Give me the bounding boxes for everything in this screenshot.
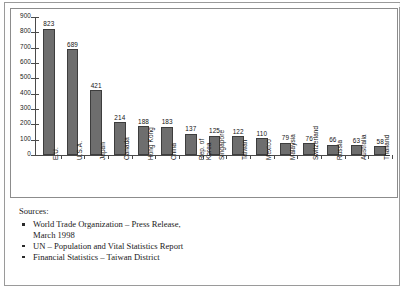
source-text-line1: UN – Population and Vital Statistics Rep… [33,241,183,251]
chart-plot-area: 9008007006005004003002001000 82368942121… [35,17,390,155]
category-label-line: Australia [360,134,367,160]
x-axis-category-label: Taiwan [241,140,248,161]
y-axis-tick-mark [31,63,39,64]
x-axis-tick-mark [368,155,369,159]
y-axis-tick-mark [31,124,39,125]
sources-list: World Trade Organization – Press Release… [19,219,349,262]
bar-value-label: 188 [133,118,155,125]
bar-value-label: 689 [62,41,84,48]
x-axis-category-label: Thailand [383,135,390,160]
category-label-line: Korea [205,139,212,160]
source-text-line2: March 1998 [33,230,349,241]
x-axis-category-label: Singapore [218,130,225,160]
x-axis-tick-mark [132,155,133,159]
category-label-line: Thailand [383,135,390,160]
category-label-line: China [170,143,177,160]
y-axis-tick-mark [31,155,39,156]
y-axis-tick-mark [31,17,39,18]
x-axis-tick-mark [84,155,85,159]
y-axis-tick-label: 500 [20,73,31,80]
y-axis-tick-label: 200 [20,119,31,126]
source-text-line1: Financial Statistics – Taiwan District [33,252,160,262]
category-label-line: Switzerland [312,126,319,160]
x-axis-tick-mark [250,155,251,159]
y-axis-tick-mark [31,32,39,33]
category-label-line: E.U. [52,147,59,160]
x-axis-tick-mark [345,155,346,159]
category-label-line: Singapore [218,130,225,160]
bullet-icon [22,245,25,248]
category-label-line: Mexico [265,139,272,160]
x-axis-tick-mark [108,155,109,159]
bullet-icon [22,256,25,259]
bar [67,49,79,155]
y-axis-tick-label: 100 [20,135,31,142]
source-list-item: Financial Statistics – Taiwan District [19,252,349,263]
source-text-line1: World Trade Organization – Press Release… [33,219,181,229]
x-axis-tick-mark [274,155,275,159]
x-axis-category-label: Australia [360,134,367,160]
bar-chart-container: 9008007006005004003002001000 82368942121… [10,8,398,198]
category-label-line: Hong Kong [147,127,154,160]
x-axis-category-label: Japan [99,142,106,160]
x-axis-tick-mark [61,155,62,159]
y-axis-tick-label: 300 [20,104,31,111]
x-axis-tick-mark [226,155,227,159]
document-page-frame: 9008007006005004003002001000 82368942121… [4,2,400,286]
category-label-line: Rep. of [198,139,205,160]
y-axis-tick-mark [31,94,39,95]
bar-value-label: 137 [180,125,202,132]
bar [185,134,197,155]
y-axis-tick-label: 900 [20,12,31,19]
y-axis-tick-label: 400 [20,89,31,96]
x-axis-category-label: Rep. ofKorea [198,139,212,160]
bullet-icon [22,223,25,226]
category-label-line: U.S.A. [76,141,83,160]
x-axis-category-label: Russia [336,140,343,160]
category-label-line: Japan [99,142,106,160]
bar [43,29,55,155]
x-axis-tick-mark [321,155,322,159]
x-axis-category-label: Mexico [265,139,272,160]
x-axis-category-label: Switzerland [312,126,319,160]
source-list-item: World Trade Organization – Press Release… [19,219,349,240]
x-axis-category-label: China [170,143,177,160]
y-axis-tick-mark [31,140,39,141]
x-axis-category-label: Malaysia [289,134,296,160]
x-axis-category-label: Canada [123,137,130,160]
bar-value-label: 421 [85,82,107,89]
y-axis-tick-label: 0 [27,150,31,157]
y-axis-tick-mark [31,109,39,110]
y-axis-tick-mark [31,48,39,49]
sources-block: Sources: World Trade Organization – Pres… [19,206,349,263]
x-axis-tick-mark [392,155,393,159]
category-label-line: Russia [336,140,343,160]
bar-value-label: 214 [109,114,131,121]
bar-value-label: 110 [251,130,273,137]
category-label-line: Taiwan [241,140,248,161]
y-axis-tick-mark [31,78,39,79]
bar-value-label: 122 [227,128,249,135]
sources-title: Sources: [19,206,349,217]
x-axis-tick-mark [297,155,298,159]
y-axis-line [35,17,36,155]
x-axis-tick-mark [155,155,156,159]
x-axis-tick-mark [179,155,180,159]
source-list-item: UN – Population and Vital Statistics Rep… [19,241,349,252]
x-axis-category-label: Hong Kong [147,127,154,160]
y-axis-tick-label: 800 [20,27,31,34]
y-axis-tick-label: 700 [20,43,31,50]
category-label-line: Canada [123,137,130,160]
bar-value-label: 823 [38,20,60,27]
x-axis-category-label: U.S.A. [76,141,83,160]
category-label-line: Malaysia [289,134,296,160]
x-axis-category-label: E.U. [52,147,59,160]
scan-artifact-strip [11,3,403,7]
y-axis-tick-label: 600 [20,58,31,65]
bar-value-label: 183 [156,118,178,125]
